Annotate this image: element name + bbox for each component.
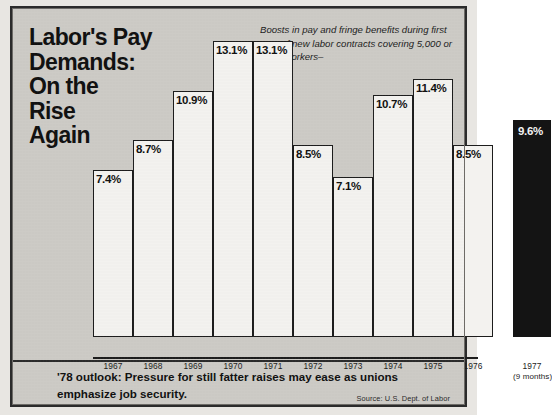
footer-divider — [13, 360, 464, 362]
source-note: Source: U.S. Dept. of Labor — [357, 394, 451, 403]
bar-1970: 13.1% — [213, 41, 253, 337]
bar-1975: 11.4% — [413, 79, 453, 337]
axis-baseline — [93, 357, 478, 359]
chart-frame: Labor's PayDemands:On theRiseAgain Boost… — [10, 6, 467, 407]
bar-value-1976: 8.5% — [456, 148, 481, 160]
bar-1969: 10.9% — [173, 91, 213, 337]
bar-value-1977: 9.6% — [518, 125, 543, 137]
bar-chart: Average Increase 7.4%19678.7%196810.9%19… — [31, 27, 454, 404]
bar-value-1974: 10.7% — [376, 98, 407, 110]
bar-value-1971: 13.1% — [256, 44, 287, 56]
chart-inner: Labor's PayDemands:On theRiseAgain Boost… — [13, 9, 464, 404]
bar-value-1975: 11.4% — [416, 82, 446, 94]
bar-1967: 7.4% — [93, 170, 133, 337]
bar-value-1973: 7.1% — [336, 180, 361, 192]
bar-value-1967: 7.4% — [96, 173, 121, 185]
bar-value-1968: 8.7% — [136, 143, 161, 155]
bar-value-1972: 8.5% — [296, 148, 321, 160]
bar-1976: 8.5% — [453, 145, 493, 337]
bar-value-1969: 10.9% — [176, 94, 207, 106]
bar-value-1970: 13.1% — [216, 44, 247, 56]
bar-1971: 13.1% — [253, 41, 293, 337]
bar-1973: 7.1% — [333, 177, 373, 337]
x-tick-1976: 1976 — [453, 361, 493, 371]
bar-1974: 10.7% — [373, 95, 413, 337]
outlook-lead: '78 outlook: — [57, 370, 122, 383]
bar-1972: 8.5% — [293, 145, 333, 337]
bar-1977: 9.6% — [513, 120, 551, 337]
x-tick-sub-1977: (9 months) — [513, 372, 551, 381]
x-tick-1977: 1977(9 months) — [513, 361, 551, 381]
bar-1968: 8.7% — [133, 140, 173, 337]
